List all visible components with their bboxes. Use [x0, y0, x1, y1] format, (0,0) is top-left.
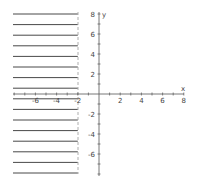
y-tick-label: 2: [91, 71, 95, 79]
inequality-plot: -6-4-22468 8642-2-4-6 x y: [0, 0, 197, 183]
x-tick-label: 6: [160, 97, 165, 105]
x-tick-label: -2: [74, 97, 81, 105]
y-tick-label: 6: [91, 31, 96, 39]
x-tick-label: 2: [118, 97, 122, 105]
x-tick-label: -4: [53, 97, 61, 105]
x-axis-label: x: [181, 85, 185, 93]
x-tick-label: -6: [32, 97, 40, 105]
x-tick-label: 8: [182, 97, 186, 105]
y-tick-label: 8: [91, 11, 95, 19]
y-axis-label: y: [102, 11, 106, 19]
y-tick-label: -4: [88, 131, 96, 139]
x-tick-label: 4: [139, 97, 144, 105]
y-tick-label: -2: [88, 111, 95, 119]
shaded-region-hatching: [13, 14, 78, 173]
y-tick-label: -6: [88, 151, 96, 159]
y-tick-label: 4: [91, 51, 96, 59]
